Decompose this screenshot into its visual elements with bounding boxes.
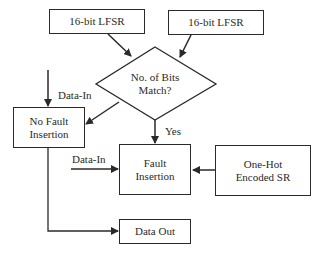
data-in-left-label: Data-In [58,89,92,101]
no-fault-insertion-box: No Fault Insertion [13,107,85,148]
fault-insertion-box: Fault Insertion [119,144,191,195]
one-hot-sr-box: One-Hot Encoded SR [215,145,311,196]
lfsr-box-right: 16-bit LFSR [168,10,264,35]
decision-label: No. of Bits Match? [115,71,195,97]
data-in-fault-label: Data-In [72,153,106,165]
lfsr-left-label: 16-bit LFSR [69,15,124,28]
lfsr-right-label: 16-bit LFSR [188,16,243,29]
lfsr-box-left: 16-bit LFSR [49,9,145,34]
data-out-box: Data Out [119,219,191,244]
yes-label: Yes [165,125,181,137]
